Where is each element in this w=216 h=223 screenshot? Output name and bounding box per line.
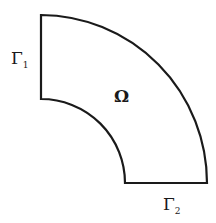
region-label-omega: Ω xyxy=(114,88,129,105)
gamma-symbol: Γ xyxy=(163,194,175,214)
domain-shape xyxy=(0,0,216,223)
domain-diagram: Γ1 Ω Γ2 xyxy=(0,0,216,223)
subscript: 2 xyxy=(175,206,181,216)
boundary-label-gamma-1: Γ1 xyxy=(11,50,29,67)
subscript: 1 xyxy=(23,60,29,70)
boundary-label-gamma-2: Γ2 xyxy=(163,196,181,213)
gamma-symbol: Γ xyxy=(11,48,23,68)
